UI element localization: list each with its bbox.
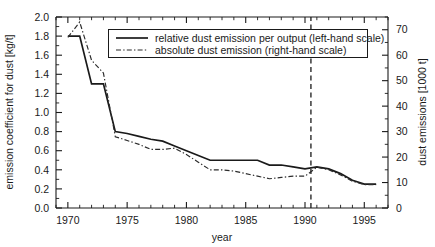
y-tick-label-right: 20 <box>396 151 408 163</box>
x-axis-title: year <box>212 231 233 243</box>
y-tick-label-left: 1.8 <box>34 30 49 42</box>
y-tick-label-right: 50 <box>396 74 408 86</box>
y-tick-label-left: 1.0 <box>34 106 49 118</box>
y-axis-left-title: emission coefficient for dust [kg/t] <box>3 34 15 189</box>
chart-figure: 197019751980198519901995 0.00.20.40.60.8… <box>0 0 435 247</box>
x-axis-tick-labels: 197019751980198519901995 <box>56 214 376 226</box>
y-axis-right-ticks <box>382 17 388 208</box>
y-tick-label-left: 0.4 <box>34 164 49 176</box>
y-tick-label-right: 10 <box>396 176 408 188</box>
y-tick-label-right: 70 <box>396 23 408 35</box>
x-tick-label: 1975 <box>115 214 139 226</box>
y-tick-label-right: 40 <box>396 100 408 112</box>
chart-legend: relative dust emission per output (left-… <box>109 30 385 58</box>
x-tick-label: 1980 <box>175 214 199 226</box>
y-tick-label-left: 0.2 <box>34 183 49 195</box>
y-tick-label-right: 30 <box>396 125 408 137</box>
y-tick-label-right: 60 <box>396 49 408 61</box>
x-tick-label: 1985 <box>234 214 258 226</box>
dust-emission-line-chart: 197019751980198519901995 0.00.20.40.60.8… <box>0 0 435 247</box>
y-tick-label-left: 1.6 <box>34 49 49 61</box>
x-tick-label: 1990 <box>293 214 317 226</box>
y-tick-label-left: 0.0 <box>34 202 49 214</box>
legend-label-relative: relative dust emission per output (left-… <box>155 32 384 44</box>
x-tick-label: 1995 <box>353 214 377 226</box>
y-tick-label-left: 1.4 <box>34 68 49 80</box>
y-tick-label-left: 1.2 <box>34 87 49 99</box>
y-tick-label-left: 0.8 <box>34 125 49 137</box>
series-line-relative <box>68 36 376 184</box>
y-tick-label-left: 2.0 <box>34 11 49 23</box>
y-tick-label-left: 0.6 <box>34 144 49 156</box>
x-tick-label: 1970 <box>56 214 80 226</box>
y-axis-left-ticks <box>56 17 62 208</box>
y-axis-right-title: dust emissions [1000 t] <box>416 58 428 165</box>
y-axis-right-tick-labels: 010203040506070 <box>396 23 408 213</box>
y-axis-left-tick-labels: 0.00.20.40.60.81.01.21.41.61.82.0 <box>34 11 49 214</box>
legend-label-absolute: absolute dust emission (right-hand scale… <box>155 44 346 56</box>
y-tick-label-right: 0 <box>396 202 402 214</box>
